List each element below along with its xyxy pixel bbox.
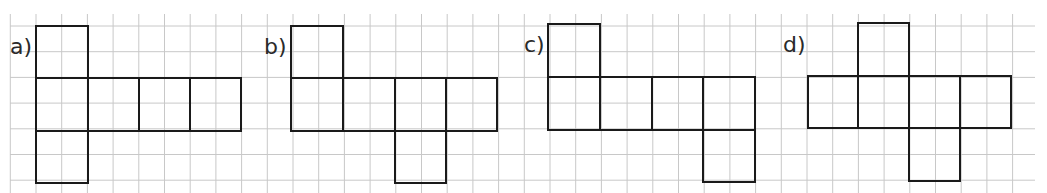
cube-nets: [0, 0, 1047, 193]
grid-paper-figure: a) b) c) d): [0, 0, 1047, 193]
net-b-label: b): [264, 36, 287, 58]
net-face: [858, 76, 909, 128]
net-face: [548, 24, 600, 77]
net-face: [600, 77, 652, 130]
net-face: [88, 78, 139, 131]
net-face: [343, 78, 395, 131]
net-face: [36, 78, 88, 131]
net-d: [808, 23, 1011, 181]
net-face: [395, 131, 446, 183]
net-face: [909, 128, 960, 181]
net-face: [36, 131, 88, 183]
net-face: [395, 78, 446, 131]
net-face: [291, 26, 343, 78]
net-face: [36, 26, 88, 78]
net-face: [291, 78, 343, 131]
net-face: [808, 76, 858, 128]
net-c: [548, 24, 755, 182]
net-a-label: a): [10, 36, 32, 58]
net-face: [909, 76, 960, 128]
net-face: [548, 77, 600, 130]
net-face: [652, 77, 703, 130]
net-face: [960, 76, 1011, 128]
net-face: [139, 78, 190, 131]
net-face: [190, 78, 241, 131]
net-face: [703, 130, 755, 182]
net-b: [291, 26, 497, 183]
net-d-label: d): [783, 34, 806, 56]
net-c-label: c): [524, 34, 545, 56]
net-a: [36, 26, 241, 183]
net-face: [703, 77, 755, 130]
net-face: [858, 23, 909, 76]
net-face: [446, 78, 497, 131]
